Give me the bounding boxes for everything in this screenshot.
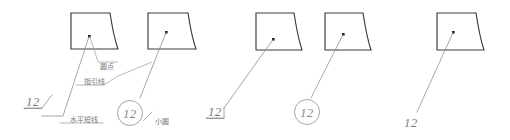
leader-line-5 — [417, 33, 453, 113]
number-label-underlined-2: 12 — [208, 104, 222, 119]
technical-drawing: 圆点 指引线 水平短线 小圆 12 12 — [0, 0, 510, 140]
shape-3-outline — [256, 13, 302, 50]
callout-label-dot: 圆点 — [100, 63, 114, 71]
number-label-underlined-1: 12 — [26, 94, 40, 109]
callout-line-small-circle — [143, 112, 152, 121]
number-label-circled-1: 12 — [123, 106, 137, 121]
shape-2-outline — [148, 13, 196, 49]
callout-label-leader: 指引线 — [84, 77, 105, 86]
leader-line-1-shoulder — [42, 95, 52, 108]
leader-line-4 — [311, 35, 343, 99]
shape-4-outline — [325, 13, 371, 50]
diagram-canvas: 圆点 指引线 水平短线 小圆 12 12 — [0, 0, 510, 140]
number-label-plain-3: 12 — [404, 115, 418, 130]
group-annotated: 圆点 指引线 水平短线 小圆 12 12 — [24, 13, 196, 126]
shape-5-outline — [437, 13, 484, 50]
number-label-circled-2: 12 — [300, 105, 314, 120]
group-plain: 12 12 — [206, 13, 371, 125]
callout-label-small-circle: 小圆 — [155, 117, 169, 126]
callout-label-horizontal: 水平短线 — [70, 115, 98, 124]
shape-1-outline — [71, 13, 118, 49]
group-single: 12 — [404, 13, 484, 130]
leader-line-3 — [224, 40, 273, 109]
